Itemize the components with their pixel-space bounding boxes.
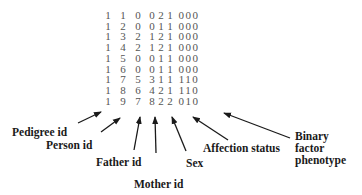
- arrow-pedigree-id: [78, 112, 101, 123]
- arrow-sex: [172, 117, 186, 151]
- arrow-mother-id: [155, 117, 156, 153]
- label-affection-status: Affection status: [203, 142, 280, 154]
- label-mother-id: Mother id: [134, 178, 183, 190]
- label-binary-line2: factor: [295, 142, 324, 154]
- label-person-id: Person id: [46, 139, 92, 151]
- arrow-binary-phenotype: [224, 113, 290, 138]
- label-binary-line1: Binary: [295, 130, 329, 142]
- label-binary-line3: phenotype: [295, 154, 346, 166]
- label-pedigree-id: Pedigree id: [12, 126, 67, 138]
- pedigree-file-diagram: 1100210001200110001321210001421210001500…: [0, 0, 362, 195]
- arrow-person-id: [101, 118, 120, 132]
- arrow-father-id: [134, 117, 140, 150]
- arrow-affection-status: [193, 117, 228, 140]
- label-father-id: Father id: [96, 156, 141, 168]
- label-sex: Sex: [186, 157, 203, 169]
